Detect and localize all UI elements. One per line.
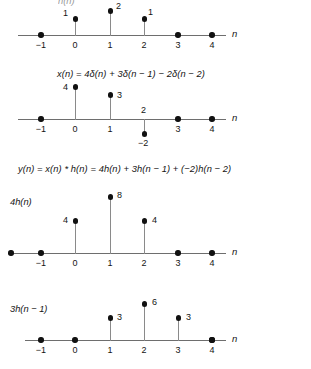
stem-n3 (178, 318, 179, 341)
value-label: 1 (148, 7, 153, 17)
data-point (108, 8, 113, 13)
panel-4h-n-label: 4h(n) (10, 197, 32, 207)
y-equation: y(n) = x(n) * h(n) = 4h(n) + 3h(n − 1) +… (18, 164, 231, 174)
value-label: 6 (152, 297, 157, 307)
panel-y-equation: y(n) = x(n) * h(n) = 4h(n) + 3h(n − 1) +… (0, 158, 311, 184)
panel-h-n: h(n) n 1 2 1 −1 0 1 2 3 4 (0, 0, 311, 62)
stem-n1 (110, 11, 111, 36)
data-point (175, 32, 180, 37)
value-label: 4 (63, 215, 68, 225)
stem-n2 (144, 221, 145, 254)
axis-variable-label: n (232, 333, 237, 344)
tick-label: 3 (168, 40, 188, 50)
data-point (142, 131, 147, 136)
panel-4h-n: 4h(n) n 4 8 4 −1 0 1 2 3 4 (0, 186, 311, 274)
tick-label: −1 (31, 124, 51, 134)
stem-n0 (75, 87, 76, 120)
data-point (38, 116, 43, 121)
data-point (73, 84, 78, 89)
panel-3h-n-1-label: 3h(n − 1) (10, 304, 47, 314)
axis-variable-label: n (232, 112, 237, 123)
stem-n1 (110, 95, 111, 120)
data-point (142, 218, 147, 223)
data-point (176, 315, 181, 320)
tick-label: −1 (31, 40, 51, 50)
tick-label: 4 (202, 258, 222, 268)
tick-label: 3 (168, 345, 188, 355)
value-label: 3 (186, 312, 191, 322)
panel-x-n: x(n) = 4δ(n) + 3δ(n − 1) − 2δ(n − 2) n 4… (0, 62, 311, 146)
axis-line (18, 119, 226, 120)
value-label: 4 (63, 82, 68, 92)
value-label: −2 (138, 138, 148, 148)
axis-variable-label: n (232, 246, 237, 257)
axis-line (25, 340, 226, 341)
stem-n1 (110, 318, 111, 341)
tick-label: 1 (100, 40, 120, 50)
value-label: 4 (152, 215, 157, 225)
data-point (209, 250, 214, 255)
data-point (209, 32, 214, 37)
stem-n0 (75, 221, 76, 254)
tick-label: 2 (134, 258, 154, 268)
figure-root: { "figure": { "title_clipped": "h(n)", "… (0, 0, 311, 369)
tick-label: 4 (202, 345, 222, 355)
x-equation: x(n) = 4δ(n) + 3δ(n − 1) − 2δ(n − 2) (57, 69, 205, 79)
axis-line (18, 35, 226, 36)
data-point (8, 250, 13, 255)
data-point (175, 116, 180, 121)
tick-label: −1 (31, 345, 51, 355)
axis-variable-label: n (232, 28, 237, 39)
value-label: 1 (63, 8, 68, 18)
tick-label: 0 (65, 345, 85, 355)
panel-h-n-label: h(n) (58, 0, 75, 6)
data-point (108, 315, 113, 320)
data-point (72, 337, 77, 342)
tick-label: 2 (134, 345, 154, 355)
stem-n2 (144, 304, 145, 341)
data-point (209, 116, 214, 121)
panel-3h-n-1: 3h(n − 1) n 3 6 3 −1 0 1 2 3 4 (0, 290, 311, 369)
value-label: 3 (117, 312, 122, 322)
value-label: 3 (117, 90, 122, 100)
value-label: 2 (116, 1, 121, 11)
tick-label: 1 (100, 258, 120, 268)
data-point (142, 301, 147, 306)
data-point (108, 194, 113, 199)
tick-label: 0 (65, 124, 85, 134)
tick-label: 3 (168, 124, 188, 134)
tick-label: 4 (202, 40, 222, 50)
data-point (73, 218, 78, 223)
tick-label: 1 (100, 124, 120, 134)
value-label: 2 (141, 105, 146, 115)
tick-label: 0 (65, 258, 85, 268)
stem-n1 (110, 197, 111, 254)
tick-label: 4 (202, 124, 222, 134)
data-point (108, 92, 113, 97)
tick-label: 3 (168, 258, 188, 268)
tick-label: −1 (31, 258, 51, 268)
data-point (38, 250, 43, 255)
data-point (38, 337, 43, 342)
tick-label: 0 (65, 40, 85, 50)
data-point (175, 250, 180, 255)
value-label: 8 (117, 190, 122, 200)
data-point (209, 337, 214, 342)
data-point (142, 16, 147, 21)
tick-label: 2 (134, 40, 154, 50)
tick-label: 1 (100, 345, 120, 355)
data-point (38, 32, 43, 37)
data-point (73, 16, 78, 21)
